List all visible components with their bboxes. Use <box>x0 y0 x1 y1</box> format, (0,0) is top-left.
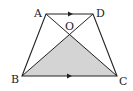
label-b: B <box>11 73 19 86</box>
label-o: O <box>65 20 74 33</box>
label-d: D <box>96 7 105 20</box>
label-a: A <box>33 7 43 20</box>
trapezoid-diagram: A D O B C <box>0 0 133 91</box>
label-c: C <box>119 75 127 88</box>
parallel-arrow-ad-icon <box>68 12 73 17</box>
